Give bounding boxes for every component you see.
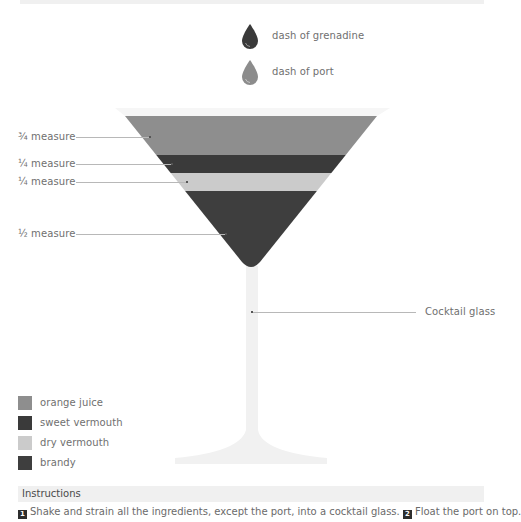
legend-label: orange juice	[40, 397, 103, 408]
measure-label: ¾ measure	[18, 131, 75, 142]
leader-dot	[149, 136, 151, 138]
legend-swatch	[18, 416, 32, 430]
step-text: Float the port on top.	[415, 506, 521, 517]
step-number-badge: 2	[403, 510, 412, 519]
leader-dot	[225, 233, 227, 235]
layer-orange-juice	[100, 116, 400, 155]
instructions-text: 1Shake and strain all the ingredients, e…	[18, 506, 521, 519]
leader-line	[76, 164, 172, 165]
measure-label: ½ measure	[18, 228, 75, 239]
instructions-title: Instructions	[22, 488, 81, 499]
leader-line	[76, 234, 226, 235]
leader-line	[76, 137, 150, 138]
glass-label: Cocktail glass	[425, 306, 495, 317]
leader-dot	[186, 181, 188, 183]
leader-dot	[171, 163, 173, 165]
legend-label: brandy	[40, 457, 76, 468]
legend-swatch	[18, 456, 32, 470]
legend-swatch	[18, 396, 32, 410]
legend-label: dry vermouth	[40, 437, 109, 448]
leader-line	[76, 182, 187, 183]
measure-label: ¼ measure	[18, 158, 75, 169]
instructions-header-bar	[18, 486, 484, 502]
measure-label: ¼ measure	[18, 176, 75, 187]
legend-label: sweet vermouth	[40, 417, 123, 428]
leader-line	[253, 312, 416, 313]
legend-swatch	[18, 436, 32, 450]
step-text: Shake and strain all the ingredients, ex…	[30, 506, 400, 517]
step-number-badge: 1	[18, 510, 27, 519]
